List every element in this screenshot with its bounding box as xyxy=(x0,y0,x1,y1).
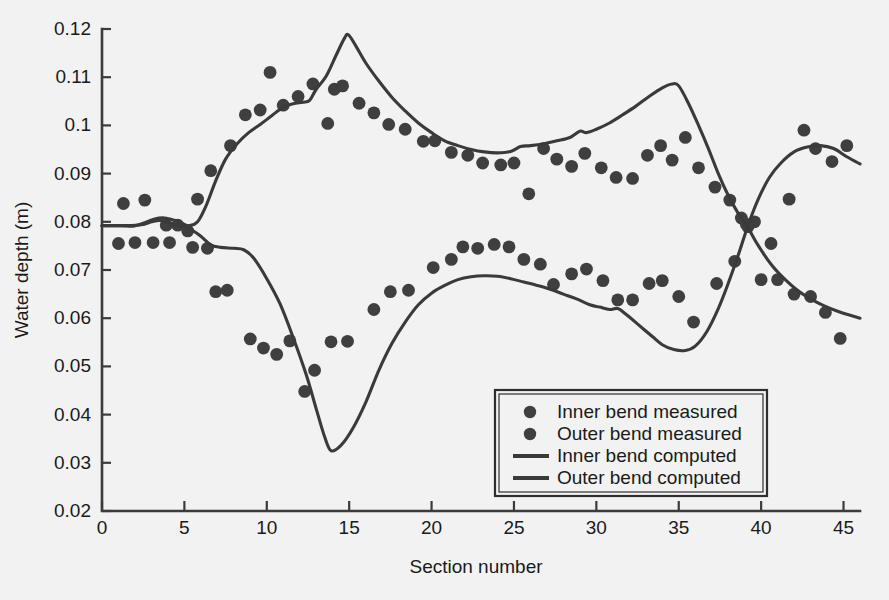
data-point xyxy=(221,284,234,297)
data-point xyxy=(656,274,669,287)
chart-series xyxy=(102,34,860,451)
data-point xyxy=(471,242,484,255)
data-point xyxy=(270,348,283,361)
data-point xyxy=(508,157,521,170)
data-point xyxy=(672,290,685,303)
data-point xyxy=(382,118,395,131)
data-point xyxy=(129,236,142,249)
data-point xyxy=(321,117,334,130)
data-point xyxy=(402,284,415,297)
data-point xyxy=(654,139,667,152)
data-point xyxy=(308,364,321,377)
x-axis-tick-label: 10 xyxy=(256,517,277,538)
legend-label: Outer bend measured xyxy=(557,423,742,444)
data-point xyxy=(503,240,516,253)
data-point xyxy=(522,187,535,200)
data-point xyxy=(626,172,639,185)
data-point xyxy=(367,106,380,119)
y-axis-title: Water depth (m) xyxy=(11,202,32,339)
data-point xyxy=(264,66,277,79)
data-point xyxy=(611,293,624,306)
legend-marker-icon xyxy=(524,428,536,440)
data-point xyxy=(186,241,199,254)
chart-legend: Inner bend measuredOuter bend measuredIn… xyxy=(495,390,767,496)
data-point xyxy=(254,104,267,117)
series-outer-bend-measured xyxy=(129,66,847,345)
water-depth-chart: 0.020.030.040.050.060.070.080.090.10.110… xyxy=(0,0,889,600)
data-point xyxy=(204,164,217,177)
data-point xyxy=(147,236,160,249)
data-point xyxy=(666,154,679,167)
data-point xyxy=(112,237,125,250)
data-point xyxy=(597,274,610,287)
data-point xyxy=(641,149,654,162)
data-point xyxy=(191,193,204,206)
x-axis-tick-label: 40 xyxy=(751,517,772,538)
data-point xyxy=(494,159,507,172)
data-point xyxy=(765,237,778,250)
y-axis-tick-label: 0.11 xyxy=(55,66,91,87)
data-point xyxy=(427,261,440,274)
data-point xyxy=(687,316,700,329)
y-axis-tick-label: 0.08 xyxy=(54,211,91,232)
data-point xyxy=(550,153,563,166)
data-point xyxy=(341,335,354,348)
data-point xyxy=(798,124,811,137)
data-point xyxy=(239,108,252,121)
x-axis-tick-label: 5 xyxy=(179,517,190,538)
x-axis-title: Section number xyxy=(409,556,543,577)
data-point xyxy=(257,342,270,355)
data-point xyxy=(755,273,768,286)
data-point xyxy=(643,277,656,290)
x-axis-tick-label: 30 xyxy=(586,517,607,538)
y-axis-tick-label: 0.1 xyxy=(65,114,91,135)
data-point xyxy=(445,146,458,159)
x-axis-tick-label: 25 xyxy=(503,517,524,538)
legend-marker-icon xyxy=(524,406,536,418)
data-point xyxy=(710,277,723,290)
x-axis-tick-label: 0 xyxy=(97,517,108,538)
x-axis-tick-label: 45 xyxy=(833,517,854,538)
data-point xyxy=(517,253,530,266)
data-point xyxy=(336,79,349,92)
data-point xyxy=(244,333,257,346)
data-point xyxy=(417,135,430,148)
data-point xyxy=(826,155,839,168)
data-point xyxy=(138,194,151,207)
legend-label: Inner bend measured xyxy=(557,401,738,422)
data-point xyxy=(809,142,822,155)
legend-label: Inner bend computed xyxy=(557,445,737,466)
data-point xyxy=(565,160,578,173)
data-point xyxy=(610,171,623,184)
data-point xyxy=(163,236,176,249)
y-axis-tick-label: 0.02 xyxy=(54,500,91,521)
y-axis-tick-label: 0.06 xyxy=(54,307,91,328)
data-point xyxy=(384,285,397,298)
x-axis-tick-label: 15 xyxy=(339,517,360,538)
y-axis-tick-label: 0.12 xyxy=(54,18,91,39)
data-point xyxy=(456,240,469,253)
data-point xyxy=(834,332,847,345)
data-point xyxy=(117,197,130,210)
legend-label: Outer bend computed xyxy=(557,467,741,488)
data-point xyxy=(783,193,796,206)
data-point xyxy=(325,335,338,348)
chart-figure: 0.020.030.040.050.060.070.080.090.10.110… xyxy=(0,0,889,600)
data-point xyxy=(353,97,366,110)
data-point xyxy=(488,238,501,251)
x-axis-tick-label: 35 xyxy=(668,517,689,538)
data-point xyxy=(578,147,591,160)
legend-item: Outer bend measured xyxy=(524,423,742,444)
y-axis-tick-label: 0.04 xyxy=(54,404,91,425)
data-point xyxy=(445,253,458,266)
data-point xyxy=(679,131,692,144)
data-point xyxy=(565,267,578,280)
data-point xyxy=(626,293,639,306)
y-axis-tick-label: 0.09 xyxy=(54,163,91,184)
data-point xyxy=(692,161,705,174)
data-point xyxy=(399,123,412,136)
data-point xyxy=(840,139,853,152)
y-axis-tick-label: 0.03 xyxy=(54,452,91,473)
y-axis-tick-label: 0.07 xyxy=(54,259,91,280)
data-point xyxy=(209,285,222,298)
